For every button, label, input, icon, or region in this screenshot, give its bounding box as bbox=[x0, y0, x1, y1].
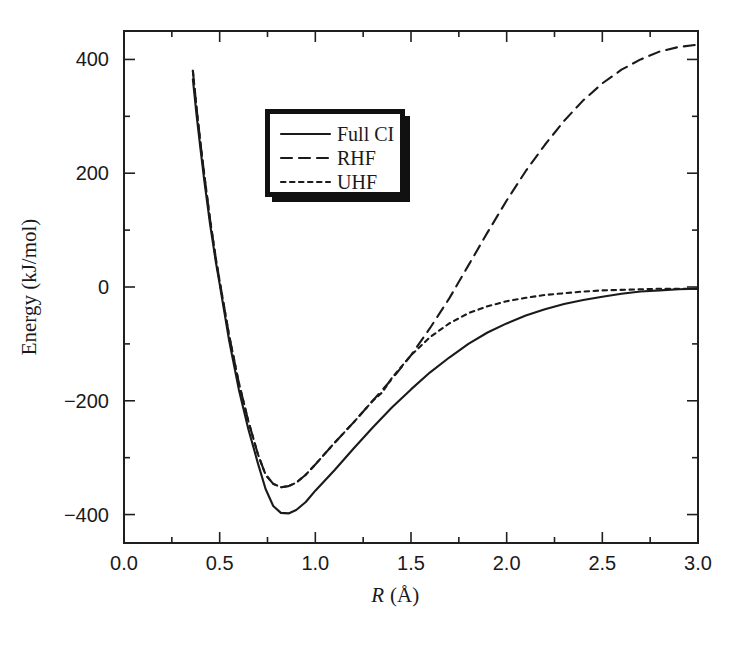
x-axis-tick-labels: 0.00.51.01.52.02.53.0 bbox=[110, 552, 712, 574]
legend-label-rhf: RHF bbox=[337, 147, 376, 169]
y-tick-label: 0 bbox=[98, 276, 109, 298]
potential-energy-curve-figure: 0.00.51.01.52.02.53.0 4002000−200−400 En… bbox=[0, 0, 742, 647]
x-axis-title-symbol: R bbox=[370, 583, 384, 607]
x-axis-title-unit: (Å) bbox=[390, 583, 419, 607]
legend: Full CIRHFUHF bbox=[265, 109, 410, 202]
x-tick-label: 1.0 bbox=[301, 552, 329, 574]
y-tick-label: −400 bbox=[64, 504, 109, 526]
x-axis-ticks bbox=[124, 31, 698, 543]
x-tick-label: 2.5 bbox=[588, 552, 616, 574]
x-tick-label: 2.0 bbox=[493, 552, 521, 574]
legend-label-full-ci: Full CI bbox=[337, 123, 394, 145]
y-tick-label: 400 bbox=[76, 48, 109, 70]
legend-label-uhf: UHF bbox=[337, 171, 377, 193]
y-tick-label: −200 bbox=[64, 390, 109, 412]
x-tick-label: 0.5 bbox=[206, 552, 234, 574]
y-axis-title: Energy (kJ/mol) bbox=[17, 219, 41, 356]
plot-frame bbox=[124, 31, 698, 543]
x-axis-title: R (Å) bbox=[370, 583, 419, 607]
x-tick-label: 3.0 bbox=[684, 552, 712, 574]
x-tick-label: 0.0 bbox=[110, 552, 138, 574]
chart-canvas: 0.00.51.01.52.02.53.0 4002000−200−400 En… bbox=[0, 0, 742, 647]
y-axis-ticks bbox=[124, 59, 698, 514]
y-tick-label: 200 bbox=[76, 162, 109, 184]
y-axis-tick-labels: 4002000−200−400 bbox=[64, 48, 109, 525]
x-tick-label: 1.5 bbox=[397, 552, 425, 574]
